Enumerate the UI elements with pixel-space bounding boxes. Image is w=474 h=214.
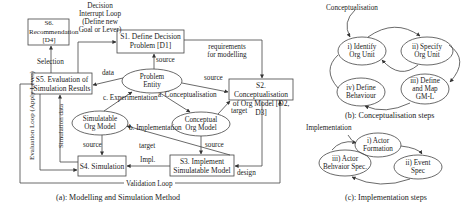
validation-loop-label: Validation Loop <box>124 180 175 188</box>
source-s1-label: source <box>156 56 175 64</box>
problem-entity-ellipse: Problem Entity <box>133 73 171 89</box>
step-actor-behaviour-spec: iii) Actor Behvaior Spec. <box>322 155 368 171</box>
simulation-data-label: Simulation data <box>57 103 65 149</box>
data-label: data <box>102 69 114 77</box>
s1-define-decision-problem-box: S1. Define Decision Problem [D1] <box>118 32 183 50</box>
step-define-behaviour: iv) Define Behaviour <box>341 84 381 100</box>
evaluation-loop-label: Evaluation Loop (Apply Lever) <box>28 104 36 160</box>
source-s3-label: source <box>205 141 224 149</box>
step-specify-org-unit: ii) Specify Org Unit <box>406 43 448 59</box>
panel-a-caption: (a): Modelling and Simulation Method <box>56 193 180 202</box>
target-s3-label: target <box>139 142 155 150</box>
s3-implement-box: S3. Implement Simulatable Model <box>171 157 233 175</box>
conceptual-org-model-ellipse: Conceptual Org Model <box>180 116 222 132</box>
requirements-label: requirements for modelling <box>204 43 250 59</box>
conceptualisation-label: a. Conceptualisation <box>158 91 217 99</box>
simulatable-org-model-ellipse: Simulatable Org Model <box>78 115 122 131</box>
step-event-spec: ii) Event Spec <box>398 159 438 175</box>
panel-c-caption: (c): Implementation steps <box>345 193 427 202</box>
s6-recommendation-box: S6. Recommendation [D4] <box>29 19 69 45</box>
source-s4-label: source <box>83 141 102 149</box>
impl-label: Impl. <box>140 156 155 164</box>
target-s2-label: target <box>231 107 247 115</box>
step-define-map-gml: iii) Define and Map GM-L <box>406 77 444 101</box>
design-label: design <box>237 169 256 177</box>
step-identify-org-unit: i) Identify Org Unit <box>343 43 381 59</box>
selection-label: Selection <box>37 58 64 66</box>
s5-evaluation-box: S5. Evaluation of Simulation Results <box>33 75 91 93</box>
experimentation-label: c. Experimentation <box>103 94 158 102</box>
s4-simulation-box: S4. Simulation <box>78 162 126 171</box>
step-actor-formation: i) Actor Formation <box>358 137 398 153</box>
panel-b-caption: (b): Conceptualisation steps <box>345 111 434 120</box>
decision-loop-label: Decision Interrupt Loop (Define new Goal… <box>78 2 122 34</box>
implementation-entry-label: Implementation <box>306 124 352 132</box>
implementation-label: b. Implementation <box>129 124 182 132</box>
source-s2-label: source <box>204 74 223 82</box>
conceptualisation-entry-label: Conceptualisation <box>326 4 378 12</box>
